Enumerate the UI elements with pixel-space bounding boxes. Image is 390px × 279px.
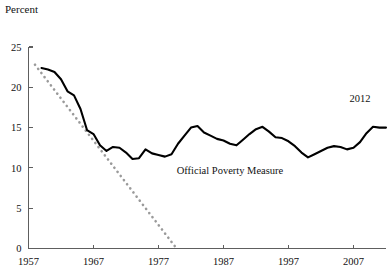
x-axis-ticks: 195719671977198719972007 <box>18 245 364 267</box>
official-poverty-measure-line <box>42 68 387 159</box>
x-tick-label: 1997 <box>278 256 299 267</box>
x-tick-label: 1977 <box>148 256 169 267</box>
y-tick-label: 20 <box>11 82 22 93</box>
x-tick-label: 2007 <box>343 256 364 267</box>
x-tick-label: 1957 <box>18 256 39 267</box>
poverty-rate-chart: Percent 0510152025 195719671977198719972… <box>0 0 390 279</box>
chart-annotation: 2012 <box>350 93 371 104</box>
trend-line-dotted <box>35 65 175 246</box>
y-tick-label: 0 <box>16 243 21 254</box>
chart-canvas: Percent 0510152025 195719671977198719972… <box>0 0 390 279</box>
y-axis-ticks: 0510152025 <box>11 42 33 255</box>
y-axis-label: Percent <box>5 3 38 15</box>
y-tick-label: 10 <box>11 163 22 174</box>
y-tick-label: 5 <box>16 203 21 214</box>
x-tick-label: 1967 <box>83 256 104 267</box>
y-tick-label: 25 <box>11 42 22 53</box>
y-tick-label: 15 <box>11 122 22 133</box>
chart-annotation: Official Poverty Measure <box>177 165 284 176</box>
x-tick-label: 1987 <box>213 256 234 267</box>
